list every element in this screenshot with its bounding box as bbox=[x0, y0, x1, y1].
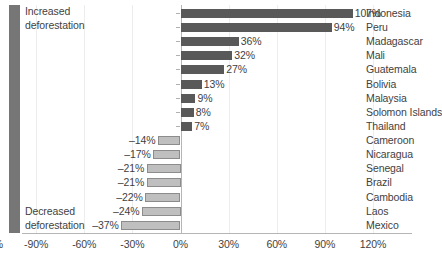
bar-negative bbox=[142, 207, 181, 216]
category-label: Guatemala bbox=[366, 63, 416, 76]
bar-positive bbox=[181, 108, 194, 117]
bar-row: –17%Nicaragua bbox=[0, 148, 436, 162]
bar-row: –22%Cambodia bbox=[0, 191, 436, 205]
category-tick-mark bbox=[176, 98, 180, 99]
annotation-decreased-deforestation: Decreased deforestation bbox=[25, 205, 84, 232]
category-label: Thailand bbox=[366, 120, 405, 133]
bar-value-label: –22% bbox=[116, 191, 142, 204]
bar-negative bbox=[147, 164, 181, 173]
category-label: Cambodia bbox=[366, 191, 413, 204]
deforestation-direction-band bbox=[9, 5, 20, 233]
bar-value-label: 94% bbox=[334, 21, 355, 34]
bar-positive bbox=[181, 37, 239, 46]
x-tick-label: -30% bbox=[120, 238, 144, 250]
category-tick-mark bbox=[176, 41, 180, 42]
bar-value-label: 32% bbox=[234, 49, 255, 62]
annotation-decreased-line2: deforestation bbox=[25, 219, 84, 233]
annotation-increased-line2: deforestation bbox=[25, 19, 84, 33]
category-tick-mark bbox=[176, 84, 180, 85]
bar-positive bbox=[181, 9, 353, 18]
annotation-increased-line1: Increased bbox=[25, 5, 84, 19]
bar-negative bbox=[153, 150, 180, 159]
bar-row: 36%Madagascar bbox=[0, 35, 436, 49]
bar-value-label: 7% bbox=[194, 120, 209, 133]
bar-value-label: –24% bbox=[113, 205, 139, 218]
category-label: Malaysia bbox=[366, 92, 407, 105]
bar-negative bbox=[158, 136, 180, 145]
category-tick-mark bbox=[176, 126, 180, 127]
category-tick-mark bbox=[176, 13, 180, 14]
bar-row: 32%Mali bbox=[0, 49, 436, 63]
bar-value-label: 27% bbox=[226, 63, 247, 76]
bar-value-label: –17% bbox=[124, 148, 150, 161]
bar-value-label: 36% bbox=[241, 35, 262, 48]
annotation-decreased-line1: Decreased bbox=[25, 205, 84, 219]
bar-negative bbox=[145, 193, 180, 202]
x-tick-label: -90% bbox=[24, 238, 48, 250]
bar-negative bbox=[147, 178, 181, 187]
category-label: Senegal bbox=[366, 162, 404, 175]
x-tick-label: 60% bbox=[266, 238, 287, 250]
bar-value-label: 13% bbox=[204, 78, 225, 91]
bar-row: –21%Senegal bbox=[0, 162, 436, 176]
x-tick-label: -60% bbox=[72, 238, 96, 250]
x-tick-label: -120% bbox=[0, 238, 3, 250]
bar-positive bbox=[181, 65, 224, 74]
x-axis-line bbox=[22, 233, 412, 234]
bar-value-label: 8% bbox=[196, 106, 211, 119]
category-label: Cameroon bbox=[366, 134, 414, 147]
bar-positive bbox=[181, 80, 202, 89]
bar-value-label: 9% bbox=[197, 92, 212, 105]
bar-value-label: –21% bbox=[118, 162, 144, 175]
category-tick-mark bbox=[176, 112, 180, 113]
bar-positive bbox=[181, 51, 232, 60]
bar-row: –21%Brazil bbox=[0, 176, 436, 190]
bar-row: 13%Bolivia bbox=[0, 78, 436, 92]
bar-row: 8%Solomon Islands bbox=[0, 106, 436, 120]
bar-value-label: –14% bbox=[129, 134, 155, 147]
bar-row: –14%Cameroon bbox=[0, 134, 436, 148]
bar-negative bbox=[121, 221, 180, 230]
category-label: Mali bbox=[366, 49, 385, 62]
x-tick-label: 90% bbox=[315, 238, 336, 250]
category-tick-mark bbox=[176, 69, 180, 70]
bar-positive bbox=[181, 94, 195, 103]
annotation-increased-deforestation: Increased deforestation bbox=[25, 5, 84, 32]
bar-value-label: –21% bbox=[118, 176, 144, 189]
bar-row: 7%Thailand bbox=[0, 120, 436, 134]
category-label: Indonesia bbox=[366, 7, 411, 20]
x-tick-label: 30% bbox=[218, 238, 239, 250]
category-label: Laos bbox=[366, 205, 388, 218]
category-tick-mark bbox=[176, 27, 180, 28]
category-tick-mark bbox=[176, 55, 180, 56]
category-label: Madagascar bbox=[366, 35, 423, 48]
bar-value-label: –37% bbox=[92, 219, 118, 232]
bar-positive bbox=[181, 122, 192, 131]
category-label: Mexico bbox=[366, 219, 399, 232]
category-label: Brazil bbox=[366, 176, 392, 189]
bar-row: 9%Malaysia bbox=[0, 92, 436, 106]
bar-positive bbox=[181, 23, 332, 32]
category-label: Nicaragua bbox=[366, 148, 413, 161]
x-tick-label: 120% bbox=[360, 238, 386, 250]
x-tick-label: 0% bbox=[173, 238, 188, 250]
category-label: Solomon Islands bbox=[366, 106, 442, 119]
category-label: Bolivia bbox=[366, 78, 396, 91]
category-label: Peru bbox=[366, 21, 388, 34]
bar-row: 27%Guatemala bbox=[0, 63, 436, 77]
